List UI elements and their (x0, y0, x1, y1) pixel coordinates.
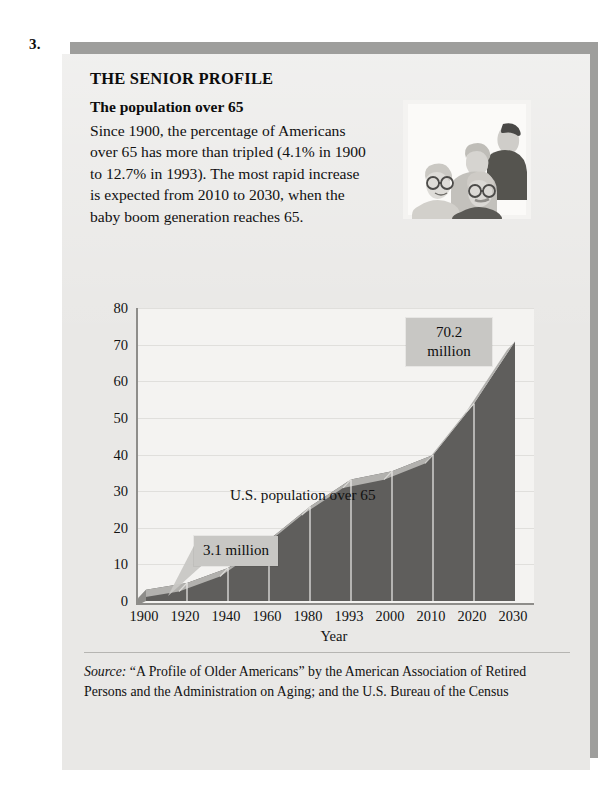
population-area-chart: U.S. population over 65 70.2 million 3.1… (90, 302, 560, 632)
x-tick-2030: 2030 (499, 608, 528, 625)
y-tick-30: 30 (88, 483, 128, 500)
y-tick-10: 10 (88, 556, 128, 573)
seniors-family-photo (403, 100, 531, 219)
chart-baseline (138, 603, 534, 605)
chart-plot-area: U.S. population over 65 70.2 million 3.1… (136, 308, 534, 605)
exhibit-subheading: The population over 65 (90, 98, 243, 116)
x-tick-2000: 2000 (376, 608, 405, 625)
item-number: 3. (29, 36, 41, 53)
exhibit-body-text: Since 1900, the percentage of Americans … (90, 120, 366, 227)
source-text: “A Profile of Older Americans” by the Am… (84, 664, 526, 699)
exhibit-heading: THE SENIOR PROFILE (90, 69, 273, 89)
callout-low: 3.1 million (194, 536, 278, 566)
y-tick-80: 80 (88, 300, 128, 317)
series-label: U.S. population over 65 (230, 486, 376, 504)
y-tick-60: 60 (88, 373, 128, 390)
x-tick-1993: 1993 (335, 608, 364, 625)
callout-high: 70.2 million (406, 318, 492, 366)
x-tick-1940: 1940 (212, 608, 241, 625)
x-tick-1900: 1900 (130, 608, 159, 625)
y-tick-40: 40 (88, 446, 128, 463)
exhibit-panel: THE SENIOR PROFILE The population over 6… (62, 54, 590, 770)
y-tick-20: 20 (88, 519, 128, 536)
x-axis-labels: 1900 1920 1940 1960 1980 1993 2000 2010 … (136, 608, 532, 630)
x-tick-2010: 2010 (417, 608, 446, 625)
source-divider (84, 652, 570, 653)
y-tick-50: 50 (88, 409, 128, 426)
x-tick-1920: 1920 (171, 608, 200, 625)
source-label: Source: (84, 664, 126, 679)
source-note: Source: “A Profile of Older Americans” b… (84, 662, 570, 701)
exhibit-page: 3. THE SENIOR PROFILE The population ove… (0, 0, 615, 790)
y-tick-0: 0 (88, 593, 128, 610)
x-tick-1960: 1960 (253, 608, 282, 625)
x-axis-title: Year (136, 628, 532, 645)
x-tick-2020: 2020 (458, 608, 487, 625)
x-tick-1980: 1980 (294, 608, 323, 625)
y-tick-70: 70 (88, 336, 128, 353)
